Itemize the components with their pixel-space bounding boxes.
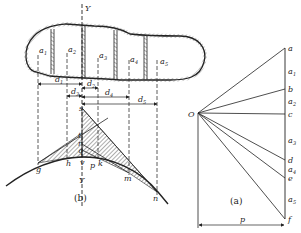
load-area-outline — [26, 24, 205, 80]
svg-text:b: b — [288, 85, 293, 94]
svg-text:k: k — [98, 159, 103, 168]
load-area-hatch-border — [26, 24, 205, 80]
svg-text:d: d — [288, 156, 293, 165]
svg-text:v: v — [80, 158, 85, 167]
svg-text:s: s — [79, 104, 83, 113]
figure-a: p O a b c d e f a 1 a 2 a 3 a 4 a 5 (a) — [188, 44, 296, 228]
svg-text:2: 2 — [91, 83, 95, 89]
svg-text:5: 5 — [165, 61, 168, 67]
caption-a: (a) — [230, 196, 242, 206]
svg-text:2: 2 — [292, 101, 296, 107]
svg-text:3: 3 — [293, 140, 296, 146]
pole-label: O — [188, 110, 195, 119]
svg-text:2: 2 — [72, 49, 76, 55]
svg-text:5: 5 — [143, 99, 146, 105]
svg-text:4: 4 — [109, 92, 113, 98]
pole-distance-label: p — [240, 215, 245, 224]
svg-text:h: h — [66, 159, 71, 168]
figure-b: Y Y a 1 a 2 a 3 a 4 a 5 — [6, 4, 205, 208]
svg-text:g: g — [36, 165, 41, 174]
rays — [198, 48, 285, 219]
svg-text:4: 4 — [292, 169, 296, 175]
y-axis-bottom-label: Y — [79, 176, 85, 185]
svg-text:a: a — [288, 44, 293, 53]
svg-text:f: f — [287, 215, 293, 224]
svg-text:n: n — [153, 194, 158, 203]
svg-text:q: q — [78, 146, 83, 155]
caption-b: (b) — [74, 193, 87, 203]
svg-text:5: 5 — [293, 199, 296, 205]
svg-text:1: 1 — [60, 79, 63, 85]
svg-text:p: p — [90, 161, 95, 170]
svg-text:3: 3 — [76, 91, 79, 97]
svg-text:c: c — [288, 110, 293, 119]
funicular-polygon-diagram: Y Y a 1 a 2 a 3 a 4 a 5 — [0, 0, 301, 233]
y-axis-top-label: Y — [85, 4, 91, 13]
svg-text:1: 1 — [44, 50, 47, 56]
svg-text:m: m — [124, 174, 132, 183]
svg-text:1: 1 — [293, 71, 296, 77]
svg-text:3: 3 — [104, 55, 107, 61]
svg-text:4: 4 — [134, 59, 138, 65]
svg-text:e: e — [288, 174, 293, 183]
